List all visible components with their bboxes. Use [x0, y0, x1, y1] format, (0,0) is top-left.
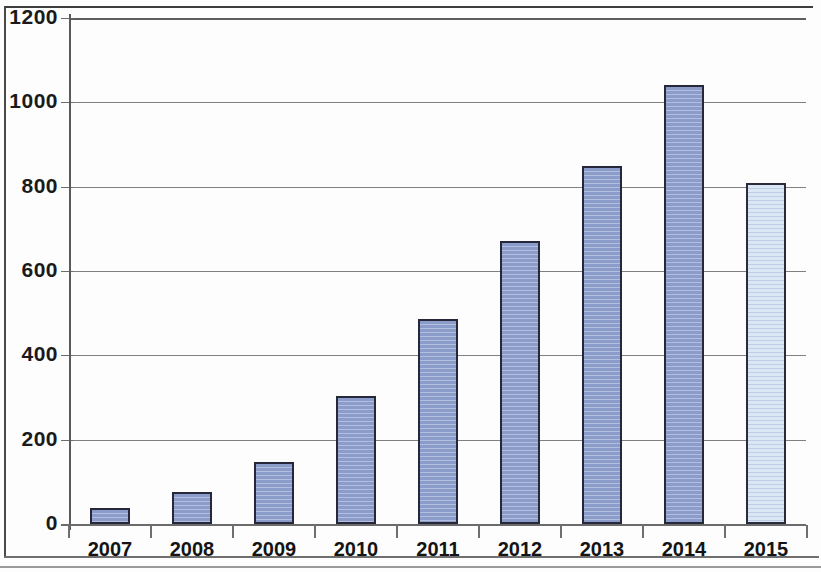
x-axis-tick-origin — [68, 525, 70, 538]
y-axis-tick-200 — [61, 440, 73, 441]
y-axis-label-0: 0 — [46, 511, 58, 535]
y-axis-tick-600 — [61, 271, 73, 272]
bar-texture — [92, 510, 128, 522]
x-axis-label-2010: 2010 — [315, 538, 397, 561]
bar-texture — [174, 494, 210, 522]
x-axis-tick-2008 — [232, 525, 234, 538]
x-axis-tick-2013 — [642, 525, 644, 538]
bar-texture — [256, 464, 292, 522]
bar-texture — [748, 185, 784, 522]
plot-area — [70, 18, 806, 524]
x-axis-label-2012: 2012 — [479, 538, 561, 561]
y-axis-labels: 020040060080010001200 — [0, 0, 58, 572]
bar-2015 — [746, 183, 786, 524]
x-axis-line — [61, 524, 806, 526]
x-axis-label-2008: 2008 — [151, 538, 233, 561]
x-axis-label-2009: 2009 — [233, 538, 315, 561]
x-axis-tick-2011 — [478, 525, 480, 538]
x-axis-label-2013: 2013 — [561, 538, 643, 561]
y-axis-line — [69, 14, 71, 530]
bar-2011 — [418, 319, 458, 524]
x-axis-label-2015: 2015 — [725, 538, 807, 561]
gridline-1200 — [70, 18, 806, 20]
x-axis-tick-2014 — [724, 525, 726, 538]
bar-2009 — [254, 462, 294, 524]
y-axis-label-200: 200 — [21, 427, 58, 451]
bar-texture — [666, 87, 702, 522]
bar-texture — [502, 243, 538, 522]
bar-texture — [338, 398, 374, 522]
bar-2013 — [582, 166, 622, 524]
bar-2012 — [500, 241, 540, 524]
y-axis-tick-800 — [61, 187, 73, 188]
bar-2008 — [172, 492, 212, 524]
x-axis-label-2007: 2007 — [69, 538, 151, 561]
x-axis-label-2011: 2011 — [397, 538, 479, 561]
y-axis-label-1000: 1000 — [9, 89, 58, 113]
y-axis-label-800: 800 — [21, 174, 58, 198]
x-axis-tick-2010 — [396, 525, 398, 538]
bar-2007 — [90, 508, 130, 524]
x-axis-label-2014: 2014 — [643, 538, 725, 561]
bar-texture — [420, 321, 456, 522]
y-axis-tick-1000 — [61, 102, 73, 103]
y-axis-label-1200: 1200 — [9, 5, 58, 29]
page-border-bottom-secondary — [0, 566, 821, 568]
x-axis-tick-2009 — [314, 525, 316, 538]
chart-page: 020040060080010001200 200720082009201020… — [0, 0, 821, 572]
bar-2014 — [664, 85, 704, 524]
bar-texture — [584, 168, 620, 522]
y-axis-label-400: 400 — [21, 342, 58, 366]
x-axis-tick-2015 — [806, 525, 808, 538]
x-axis-tick-2012 — [560, 525, 562, 538]
y-axis-tick-400 — [61, 355, 73, 356]
y-axis-label-600: 600 — [21, 258, 58, 282]
bar-2010 — [336, 396, 376, 524]
x-axis-tick-2007 — [150, 525, 152, 538]
y-axis-tick-1200 — [61, 18, 73, 19]
